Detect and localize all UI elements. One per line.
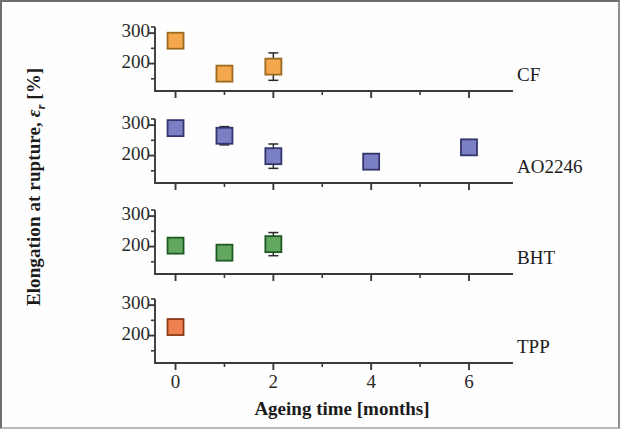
data-marker bbox=[168, 33, 184, 49]
axis-spine bbox=[155, 27, 513, 91]
panel-bht bbox=[148, 210, 513, 281]
data-marker bbox=[216, 128, 232, 144]
panel-label-ao2246: AO2246 bbox=[517, 156, 582, 178]
data-marker bbox=[265, 59, 281, 75]
data-marker bbox=[168, 120, 184, 136]
data-point bbox=[216, 245, 232, 261]
data-point bbox=[168, 319, 184, 335]
data-point bbox=[216, 127, 232, 145]
data-marker bbox=[461, 139, 477, 155]
axis-spine bbox=[155, 119, 513, 183]
data-marker bbox=[265, 148, 281, 164]
data-point bbox=[168, 120, 184, 136]
panel-cf bbox=[148, 27, 513, 98]
data-marker bbox=[216, 245, 232, 261]
y-tick-label: 200 bbox=[92, 234, 150, 256]
data-point bbox=[461, 139, 477, 155]
axis-spine bbox=[155, 299, 513, 363]
y-tick-label: 200 bbox=[92, 143, 150, 165]
y-tick-label: 300 bbox=[92, 203, 150, 225]
panel-tpp bbox=[148, 299, 513, 370]
data-point bbox=[265, 53, 281, 80]
axis-spine bbox=[155, 210, 513, 274]
data-marker bbox=[363, 154, 379, 170]
figure-frame: Elongation at rupture, εr [%] Ageing tim… bbox=[0, 0, 620, 429]
y-tick-label: 300 bbox=[92, 20, 150, 42]
x-tick-label: 4 bbox=[351, 371, 391, 393]
data-point bbox=[168, 33, 184, 49]
data-point bbox=[265, 144, 281, 168]
y-tick-label: 300 bbox=[92, 292, 150, 314]
panel-ao2246 bbox=[148, 119, 513, 190]
data-marker bbox=[168, 238, 184, 254]
data-point bbox=[363, 154, 379, 170]
x-tick-label: 0 bbox=[156, 371, 196, 393]
data-marker bbox=[168, 319, 184, 335]
x-tick-label: 2 bbox=[253, 371, 293, 393]
panel-label-tpp: TPP bbox=[517, 336, 550, 358]
data-point bbox=[168, 238, 184, 254]
y-tick-label: 200 bbox=[92, 51, 150, 73]
data-marker bbox=[216, 66, 232, 82]
data-point bbox=[216, 66, 232, 82]
y-tick-label: 200 bbox=[92, 323, 150, 345]
data-point bbox=[265, 233, 281, 256]
data-marker bbox=[265, 236, 281, 252]
panel-label-bht: BHT bbox=[517, 247, 555, 269]
x-tick-label: 6 bbox=[449, 371, 489, 393]
y-tick-label: 300 bbox=[92, 112, 150, 134]
panel-label-cf: CF bbox=[517, 64, 540, 86]
